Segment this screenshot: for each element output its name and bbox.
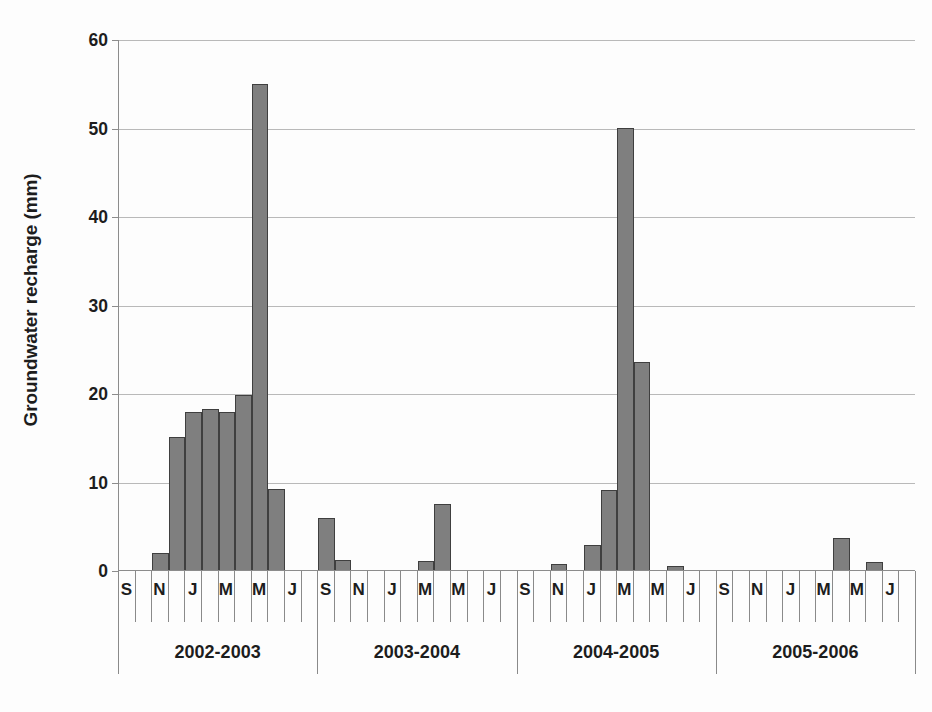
- month-label: N: [353, 580, 365, 600]
- y-axis-tick-mark: [112, 40, 119, 41]
- month-tick: [533, 571, 534, 622]
- month-tick: [350, 571, 351, 622]
- month-tick: [583, 571, 584, 622]
- month-tick: [483, 571, 484, 622]
- year-separator: [317, 622, 318, 674]
- bar: [335, 560, 352, 570]
- bar: [601, 490, 618, 570]
- month-tick: [882, 571, 883, 622]
- y-axis-tick-mark: [112, 129, 119, 130]
- month-tick: [135, 571, 136, 622]
- month-tick: [301, 571, 302, 622]
- year-group-label: 2004-2005: [573, 642, 659, 663]
- month-label: J: [586, 580, 595, 600]
- month-label: M: [850, 580, 864, 600]
- month-tick: [699, 571, 700, 622]
- month-tick: [517, 571, 518, 622]
- month-label: N: [552, 580, 564, 600]
- year-separator: [118, 622, 119, 674]
- year-group-label: 2002-2003: [175, 642, 261, 663]
- bar: [584, 545, 601, 570]
- month-label: M: [418, 580, 432, 600]
- y-axis-tick-label: 30: [89, 295, 108, 316]
- year-axis: 2002-20032003-20042004-20052005-2006: [118, 622, 915, 674]
- y-axis-tick-label: 20: [89, 384, 108, 405]
- month-label: M: [219, 580, 233, 600]
- month-tick: [683, 571, 684, 622]
- month-tick: [334, 571, 335, 622]
- month-tick: [317, 571, 318, 622]
- month-tick: [500, 571, 501, 622]
- month-label: M: [651, 580, 665, 600]
- month-tick: [367, 571, 368, 622]
- bar-series: [119, 40, 915, 570]
- month-tick: [400, 571, 401, 622]
- year-separator: [517, 622, 518, 674]
- month-tick: [467, 571, 468, 622]
- bar: [185, 412, 202, 570]
- month-label: M: [451, 580, 465, 600]
- month-tick: [898, 571, 899, 622]
- bar: [169, 437, 186, 570]
- month-tick: [766, 571, 767, 622]
- year-separator: [915, 622, 916, 674]
- bar: [617, 128, 634, 571]
- bar: [318, 518, 335, 570]
- month-tick: [666, 571, 667, 622]
- year-group-label: 2005-2006: [772, 642, 858, 663]
- month-tick: [915, 571, 916, 622]
- month-label: J: [786, 580, 795, 600]
- y-axis-tick-mark: [112, 394, 119, 395]
- month-label: M: [617, 580, 631, 600]
- y-axis-tick-label: 40: [89, 207, 108, 228]
- month-label: S: [121, 580, 132, 600]
- month-tick: [384, 571, 385, 622]
- month-label: N: [751, 580, 763, 600]
- month-tick: [234, 571, 235, 622]
- month-tick: [267, 571, 268, 622]
- month-label: M: [252, 580, 266, 600]
- y-axis-tick-mark: [112, 217, 119, 218]
- month-tick: [782, 571, 783, 622]
- y-axis-tick-mark: [112, 306, 119, 307]
- month-tick: [118, 571, 119, 622]
- bar: [418, 561, 435, 570]
- y-axis-title-text: Groundwater recharge (mm): [19, 174, 41, 427]
- y-axis-tick-label: 0: [98, 561, 108, 582]
- year-separator: [716, 622, 717, 674]
- month-label: J: [885, 580, 894, 600]
- bar: [152, 553, 169, 570]
- month-label: J: [487, 580, 496, 600]
- month-tick: [865, 571, 866, 622]
- month-label: J: [387, 580, 396, 600]
- y-axis-title: Groundwater recharge (mm): [0, 0, 60, 600]
- y-axis-tick-label: 60: [89, 30, 108, 51]
- month-tick: [633, 571, 634, 622]
- plot-area: 0102030405060: [118, 40, 915, 571]
- month-tick: [151, 571, 152, 622]
- bar: [667, 566, 684, 570]
- y-axis-tick-label: 50: [89, 118, 108, 139]
- month-label: S: [718, 580, 729, 600]
- month-label: J: [686, 580, 695, 600]
- month-label: M: [817, 580, 831, 600]
- month-tick: [716, 571, 717, 622]
- bar: [634, 362, 651, 570]
- month-tick: [566, 571, 567, 622]
- month-tick: [600, 571, 601, 622]
- month-label: J: [288, 580, 297, 600]
- month-label: N: [153, 580, 165, 600]
- month-tick: [433, 571, 434, 622]
- month-label: J: [188, 580, 197, 600]
- month-tick: [832, 571, 833, 622]
- month-tick: [732, 571, 733, 622]
- month-tick: [284, 571, 285, 622]
- month-tick: [799, 571, 800, 622]
- month-tick: [168, 571, 169, 622]
- bar: [434, 504, 451, 570]
- bar: [235, 395, 252, 570]
- y-axis-tick-mark: [112, 483, 119, 484]
- bar: [268, 489, 285, 570]
- bar: [219, 412, 236, 570]
- month-label: S: [519, 580, 530, 600]
